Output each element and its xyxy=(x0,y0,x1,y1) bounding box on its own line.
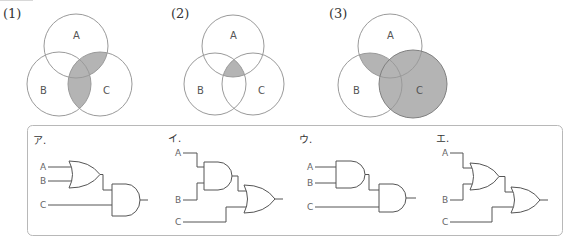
option-label: ウ. xyxy=(299,134,312,145)
set-label-c: C xyxy=(416,85,423,96)
circuit-option-e: エ. A B C xyxy=(436,133,548,227)
option-label: イ. xyxy=(168,133,181,144)
input-label-c: C xyxy=(442,217,448,227)
or-gate-icon xyxy=(511,187,540,213)
diagram-label-3: (3) xyxy=(329,6,347,21)
wire-b xyxy=(183,183,204,200)
input-label-b: B xyxy=(40,176,46,186)
set-label-c: C xyxy=(258,85,265,96)
circuit-option-i: イ. A B C xyxy=(168,133,283,227)
venn-diagram-1: (1) A B C xyxy=(3,6,132,116)
set-label-b: B xyxy=(197,85,204,96)
circle-c xyxy=(222,53,284,115)
input-label-c: C xyxy=(307,202,313,212)
set-label-a: A xyxy=(387,30,394,41)
wire-a xyxy=(183,153,204,167)
venn-diagram-3: (3) A B C xyxy=(329,6,447,118)
wire-c xyxy=(450,207,515,222)
and-gate-icon xyxy=(112,184,140,216)
and-gate-icon xyxy=(336,161,365,188)
and-gate-icon xyxy=(379,184,406,212)
or-gate-icon xyxy=(244,185,275,213)
circle-b xyxy=(184,53,246,115)
set-label-b: B xyxy=(40,85,47,96)
input-label-a: A xyxy=(442,148,449,158)
circuit-option-a: ア. A B C xyxy=(33,135,148,216)
wire xyxy=(232,176,247,191)
input-label-a: A xyxy=(175,148,182,158)
input-wires xyxy=(315,167,336,183)
input-label-c: C xyxy=(40,200,46,210)
set-label-a: A xyxy=(230,30,237,41)
wire-a xyxy=(450,153,473,168)
or-gate-icon xyxy=(470,163,499,190)
option-label: ア. xyxy=(33,135,46,146)
input-label-a: A xyxy=(40,162,47,172)
set-label-a: A xyxy=(73,30,80,41)
input-label-c: C xyxy=(175,217,181,227)
or-gate-icon xyxy=(69,161,100,188)
input-wires xyxy=(48,167,72,181)
circuit-option-u: ウ. A B C xyxy=(299,134,416,212)
input-label-b: B xyxy=(175,195,181,205)
wire xyxy=(365,175,379,191)
set-label-c: C xyxy=(103,85,110,96)
set-label-b: B xyxy=(353,85,360,96)
wire-b xyxy=(450,184,473,200)
diagram-label-2: (2) xyxy=(171,6,189,21)
shaded-region-1 xyxy=(27,14,108,116)
diagram-label-1: (1) xyxy=(3,6,21,21)
option-label: エ. xyxy=(436,133,449,144)
wire xyxy=(100,175,112,191)
input-label-b: B xyxy=(442,195,448,205)
venn-diagram-2: (2) A B C xyxy=(171,6,284,115)
wire-c xyxy=(183,207,248,222)
question-figure: (1) A B C (2) A B C (3) xyxy=(0,0,573,242)
input-label-a: A xyxy=(307,162,314,172)
input-label-b: B xyxy=(307,178,313,188)
and-gate-icon xyxy=(204,162,232,190)
